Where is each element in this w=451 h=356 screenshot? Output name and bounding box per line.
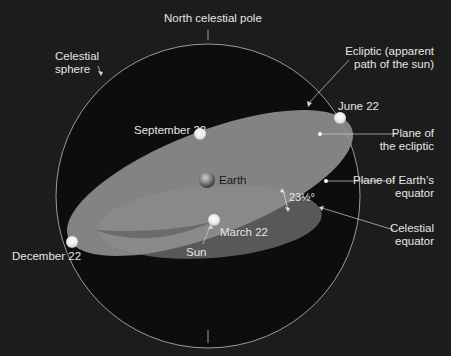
equator-plane-dot: [324, 179, 328, 183]
sun-march-22: [208, 214, 220, 226]
label-december-22: December 22: [12, 250, 81, 263]
label-north-celestial-pole: North celestial pole: [164, 12, 262, 25]
label-sun: Sun: [186, 246, 206, 259]
celestial-sphere-diagram: North celestial pole Celestial sphere Ec…: [0, 0, 451, 356]
label-march-22: March 22: [220, 226, 268, 239]
label-june-22: June 22: [338, 100, 379, 113]
sun-june-22: [334, 112, 346, 124]
label-tilt-angle: 23½°: [289, 191, 315, 204]
label-ecliptic-1: Ecliptic (apparent: [345, 45, 434, 58]
label-plane-ecliptic-1: Plane of: [392, 127, 434, 140]
label-celestial-equator-1: Celestial: [390, 222, 434, 235]
label-september-22: September 22: [134, 124, 206, 137]
label-celestial-sphere-1: Celestial: [55, 50, 99, 63]
label-celestial-sphere-2: sphere: [55, 63, 90, 76]
label-earth: Earth: [219, 174, 247, 187]
label-celestial-equator-2: equator: [395, 235, 434, 248]
sun-december-22: [66, 236, 78, 248]
label-plane-equator-1: Plane of Earth’s: [353, 174, 434, 187]
earth-globe: [199, 172, 215, 188]
label-plane-equator-2: equator: [395, 187, 434, 200]
label-ecliptic-2: path of the sun): [354, 58, 434, 71]
label-plane-ecliptic-2: the ecliptic: [380, 140, 434, 153]
ecliptic-plane-dot: [318, 132, 322, 136]
